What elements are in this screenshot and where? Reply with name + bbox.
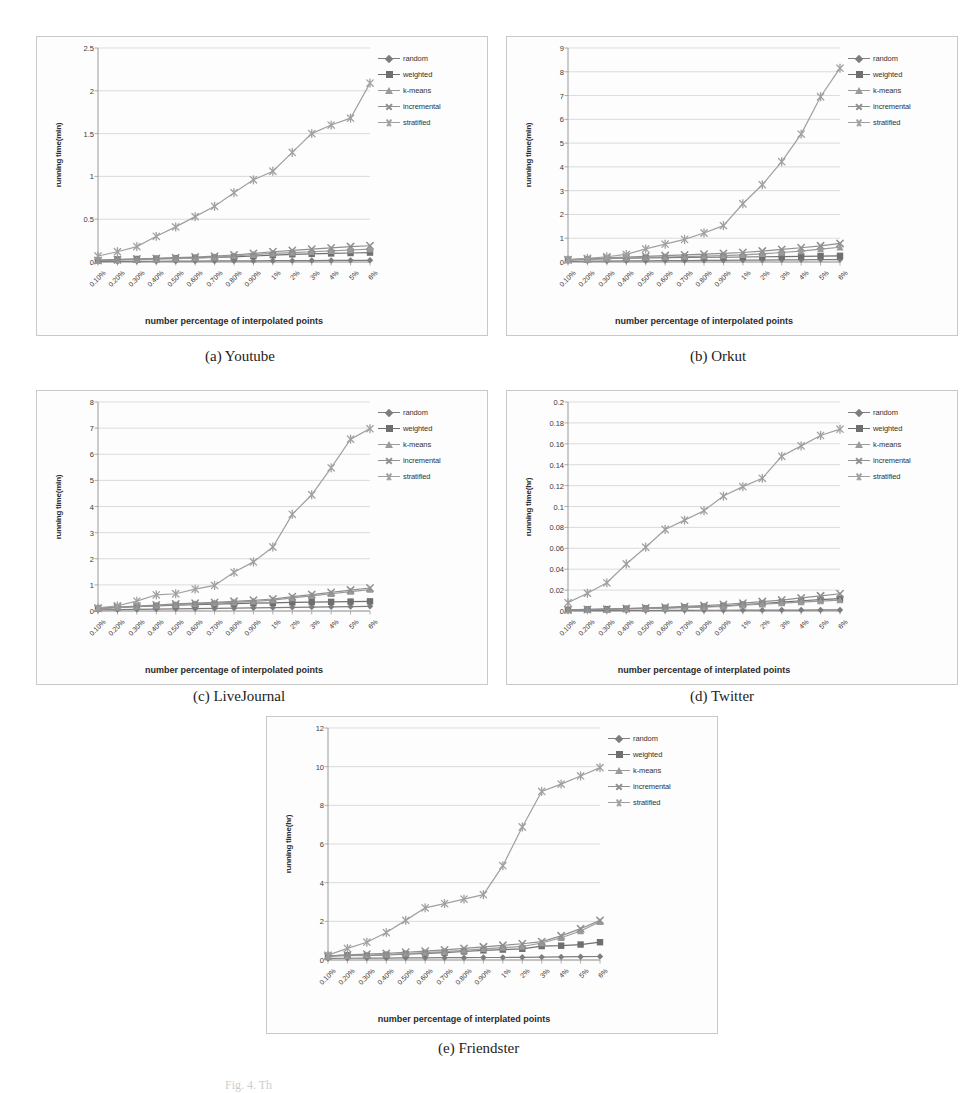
legend-label: k-means <box>633 766 661 775</box>
subfigure-caption-c: (c) LiveJournal <box>193 688 285 705</box>
square-marker-icon <box>608 749 630 760</box>
legend-label: stratified <box>403 118 430 127</box>
series-line-stratified <box>568 429 840 602</box>
star-marker-icon <box>608 797 630 808</box>
legend-item-random[interactable]: random <box>848 52 956 65</box>
legend-label: stratified <box>403 472 430 481</box>
legend-item-random[interactable]: random <box>378 406 486 419</box>
chart-panel-friendster: running time(hr)0246810120.10%0.20%0.30%… <box>266 716 718 1034</box>
legend-item-stratified[interactable]: stratified <box>848 470 956 483</box>
square-marker-icon <box>848 423 870 434</box>
legend-item-stratified[interactable]: stratified <box>848 116 956 129</box>
diamond-marker-icon <box>848 407 870 418</box>
diamond-marker-icon <box>378 53 400 64</box>
diamond-marker-icon <box>378 407 400 418</box>
series-line-stratified <box>328 768 600 956</box>
triangle-marker-icon <box>378 85 400 96</box>
star-marker-icon <box>848 471 870 482</box>
legend-item-random[interactable]: random <box>848 406 956 419</box>
legend-label: weighted <box>403 424 432 433</box>
legend-item-random[interactable]: random <box>378 52 486 65</box>
cross-marker-icon <box>378 455 400 466</box>
legend-item-incremental[interactable]: incremental <box>608 780 716 793</box>
chart-twitter: running time(hr)00.020.040.060.080.10.12… <box>506 390 958 685</box>
legend-label: incremental <box>403 456 441 465</box>
chart-panel-orkut: running time(min)01234567890.10%0.20%0.3… <box>506 36 958 336</box>
series-line-stratified <box>98 83 370 256</box>
legend-label: random <box>633 734 658 743</box>
legend-item-weighted[interactable]: weighted <box>378 68 486 81</box>
chart-youtube: running time(min)00.511.522.50.10%0.20%0… <box>36 36 488 336</box>
series-line-stratified <box>98 429 370 608</box>
subfigure-caption-d: (d) Twitter <box>690 688 754 705</box>
triangle-marker-icon <box>848 439 870 450</box>
legend-item-k-means[interactable]: k-means <box>848 438 956 451</box>
legend-label: stratified <box>873 118 900 127</box>
subfigure-caption-e: (e) Friendster <box>438 1040 519 1057</box>
legend-label: stratified <box>873 472 900 481</box>
legend: random weighted k-means <box>608 732 716 812</box>
cross-marker-icon <box>608 781 630 792</box>
chart-friendster: running time(hr)0246810120.10%0.20%0.30%… <box>266 716 718 1034</box>
legend: random weighted k-means <box>378 52 486 132</box>
legend-item-incremental[interactable]: incremental <box>378 100 486 113</box>
subfigure-caption-a: (a) Youtube <box>205 348 275 365</box>
legend-label: random <box>403 54 428 63</box>
legend-label: k-means <box>403 86 431 95</box>
legend-item-k-means[interactable]: k-means <box>378 438 486 451</box>
legend-label: incremental <box>403 102 441 111</box>
square-marker-icon <box>378 69 400 80</box>
chart-panel-twitter: running time(hr)00.020.040.060.080.10.12… <box>506 390 958 685</box>
legend-item-incremental[interactable]: incremental <box>378 454 486 467</box>
cross-marker-icon <box>848 101 870 112</box>
subfigure-caption-b: (b) Orkut <box>690 348 746 365</box>
legend-item-random[interactable]: random <box>608 732 716 745</box>
cross-marker-icon <box>848 455 870 466</box>
square-marker-icon <box>848 69 870 80</box>
legend-label: k-means <box>873 86 901 95</box>
legend-item-k-means[interactable]: k-means <box>378 84 486 97</box>
star-marker-icon <box>848 117 870 128</box>
star-marker-icon <box>378 117 400 128</box>
legend-label: stratified <box>633 798 660 807</box>
legend-item-stratified[interactable]: stratified <box>378 470 486 483</box>
legend-item-incremental[interactable]: incremental <box>848 454 956 467</box>
chart-panel-livejournal: running time(min)0123456780.10%0.20%0.30… <box>36 390 488 685</box>
legend-label: incremental <box>633 782 671 791</box>
legend-label: incremental <box>873 456 911 465</box>
legend-item-stratified[interactable]: stratified <box>378 116 486 129</box>
legend-item-weighted[interactable]: weighted <box>608 748 716 761</box>
legend: random weighted k-means <box>378 406 486 486</box>
legend: random weighted k-means <box>848 406 956 486</box>
legend-label: random <box>873 408 898 417</box>
square-marker-icon <box>378 423 400 434</box>
legend-item-k-means[interactable]: k-means <box>608 764 716 777</box>
chart-livejournal: running time(min)0123456780.10%0.20%0.30… <box>36 390 488 685</box>
legend-label: incremental <box>873 102 911 111</box>
legend-label: random <box>403 408 428 417</box>
legend-item-k-means[interactable]: k-means <box>848 84 956 97</box>
chart-panel-youtube: running time(min)00.511.522.50.10%0.20%0… <box>36 36 488 336</box>
legend-label: weighted <box>873 424 902 433</box>
legend-label: random <box>873 54 898 63</box>
chart-orkut: running time(min)01234567890.10%0.20%0.3… <box>506 36 958 336</box>
legend-label: weighted <box>873 70 902 79</box>
cross-marker-icon <box>378 101 400 112</box>
legend-item-weighted[interactable]: weighted <box>848 422 956 435</box>
legend-item-weighted[interactable]: weighted <box>378 422 486 435</box>
legend-label: weighted <box>633 750 662 759</box>
triangle-marker-icon <box>848 85 870 96</box>
legend: random weighted k-means <box>848 52 956 132</box>
legend-label: k-means <box>873 440 901 449</box>
diamond-marker-icon <box>608 733 630 744</box>
legend-label: weighted <box>403 70 432 79</box>
legend-item-incremental[interactable]: incremental <box>848 100 956 113</box>
legend-item-weighted[interactable]: weighted <box>848 68 956 81</box>
triangle-marker-icon <box>608 765 630 776</box>
star-marker-icon <box>378 471 400 482</box>
figure-caption: Fig. 4. Th <box>225 1078 272 1093</box>
legend-label: k-means <box>403 440 431 449</box>
legend-item-stratified[interactable]: stratified <box>608 796 716 809</box>
triangle-marker-icon <box>378 439 400 450</box>
